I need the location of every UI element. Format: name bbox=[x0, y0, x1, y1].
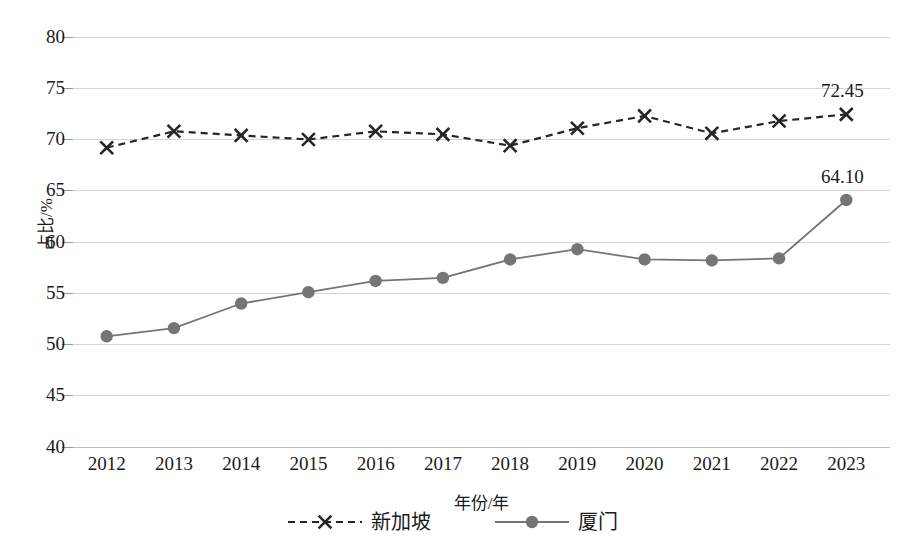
legend-item[interactable]: 厦门 bbox=[495, 512, 618, 532]
x-tick-label: 2023 bbox=[806, 453, 886, 475]
line-chart: 807570656055504540 201220132014201520162… bbox=[0, 0, 906, 550]
data-point-label: 64.10 bbox=[821, 167, 864, 186]
data-point-marker bbox=[101, 330, 113, 342]
y-tick-label: 70 bbox=[25, 129, 65, 149]
y-tick-label: 75 bbox=[25, 78, 65, 98]
data-point-marker bbox=[168, 322, 180, 334]
series-layer bbox=[73, 37, 890, 447]
legend-label: 新加坡 bbox=[371, 512, 431, 532]
chart-legend: 新加坡厦门 bbox=[0, 512, 906, 532]
data-point-marker bbox=[302, 286, 314, 298]
legend-marker-x-icon bbox=[288, 513, 362, 531]
data-point-marker bbox=[369, 274, 381, 286]
data-point-marker bbox=[706, 254, 718, 266]
legend-label: 厦门 bbox=[578, 512, 618, 532]
gridline bbox=[73, 447, 890, 448]
series-line bbox=[107, 200, 847, 336]
legend-item[interactable]: 新加坡 bbox=[288, 512, 431, 532]
data-point-marker bbox=[773, 252, 785, 264]
y-tick-label: 40 bbox=[25, 437, 65, 457]
plot-area: 807570656055504540 201220132014201520162… bbox=[73, 37, 890, 447]
x-axis-title: 年份/年 bbox=[73, 489, 890, 514]
series-line bbox=[107, 114, 847, 147]
y-tick-label: 55 bbox=[25, 283, 65, 303]
data-point-marker bbox=[436, 128, 449, 141]
data-point-marker bbox=[840, 193, 852, 205]
data-point-marker bbox=[437, 271, 449, 283]
series-solid bbox=[101, 193, 853, 342]
data-point-marker bbox=[504, 253, 516, 265]
y-axis-title: 占比/% bbox=[32, 198, 57, 251]
data-point-marker bbox=[638, 253, 650, 265]
y-tick-label: 50 bbox=[25, 334, 65, 354]
data-point-marker bbox=[571, 243, 583, 255]
y-tick-label: 80 bbox=[25, 27, 65, 47]
series-dashed bbox=[100, 108, 852, 154]
legend-marker-circle-icon bbox=[495, 513, 569, 531]
data-point-label: 72.45 bbox=[821, 81, 864, 100]
data-point-marker bbox=[235, 297, 247, 309]
y-tick-label: 45 bbox=[25, 385, 65, 405]
